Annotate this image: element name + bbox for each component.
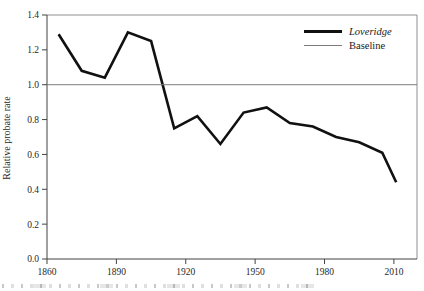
y-tick-label: 0.8 bbox=[27, 115, 39, 125]
legend-item-baseline: Baseline bbox=[304, 39, 392, 54]
relative-probate-rate-figure: 0.00.20.40.60.81.01.21.41860189019201950… bbox=[0, 0, 424, 291]
y-tick-label: 0.0 bbox=[27, 254, 39, 264]
x-tick-label: 1950 bbox=[246, 267, 265, 277]
y-tick-label: 1.4 bbox=[27, 10, 39, 20]
y-axis-title: Relative probate rate bbox=[1, 96, 12, 180]
x-tick-label: 1860 bbox=[38, 267, 57, 277]
y-tick-label: 0.4 bbox=[27, 185, 39, 195]
x-tick-label: 1980 bbox=[315, 267, 334, 277]
cut-off-caption-fragment bbox=[2, 284, 314, 288]
x-tick-label: 2010 bbox=[384, 267, 403, 277]
loveridge-line bbox=[59, 32, 397, 182]
y-tick-label: 0.6 bbox=[27, 150, 39, 160]
x-tick-label: 1890 bbox=[107, 267, 126, 277]
legend-label-baseline: Baseline bbox=[349, 39, 385, 52]
y-tick-label: 1.2 bbox=[27, 45, 39, 55]
legend-item-loveridge: Loveridge bbox=[304, 24, 392, 39]
loveridge-line-swatch bbox=[304, 30, 342, 33]
x-tick-label: 1920 bbox=[176, 267, 195, 277]
y-tick-label: 1.0 bbox=[27, 80, 39, 90]
baseline-line-swatch bbox=[304, 45, 342, 46]
chart-legend: Loveridge Baseline bbox=[304, 24, 392, 53]
y-tick-label: 0.2 bbox=[27, 220, 39, 230]
legend-label-loveridge: Loveridge bbox=[349, 25, 392, 38]
